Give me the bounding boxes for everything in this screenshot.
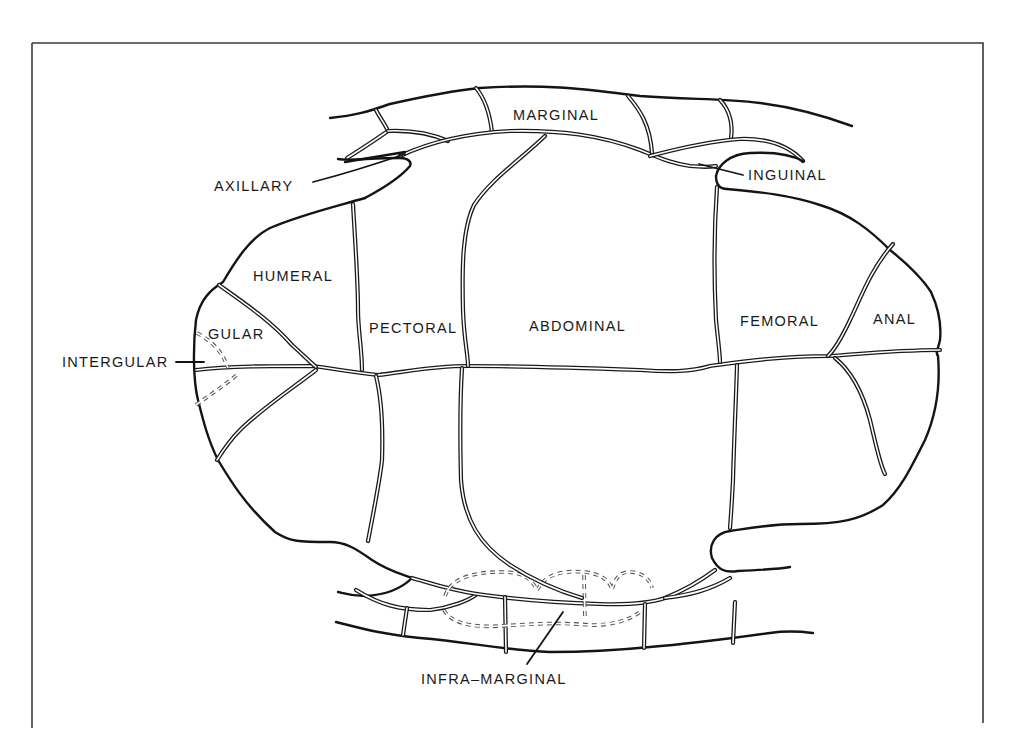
plastron-line-drawing bbox=[0, 0, 1022, 752]
label-inguinal: INGUINAL bbox=[748, 168, 827, 183]
lower-notches bbox=[338, 531, 790, 596]
label-pectoral: PECTORAL bbox=[369, 321, 457, 336]
upper-marginal-band bbox=[330, 86, 852, 166]
label-abdominal: ABDOMINAL bbox=[529, 319, 626, 334]
label-axillary: AXILLARY bbox=[214, 179, 293, 194]
infra-marginal-leader-line bbox=[527, 612, 563, 664]
plastron-outline bbox=[194, 189, 940, 578]
label-anal: ANAL bbox=[873, 312, 916, 327]
label-marginal: MARGINAL bbox=[513, 108, 599, 123]
axillary-notch bbox=[338, 152, 411, 198]
plastron-diagram-figure: MARGINAL AXILLARY INGUINAL HUMERAL GULAR… bbox=[0, 0, 1022, 752]
label-gular: GULAR bbox=[208, 327, 264, 342]
plastron-seams bbox=[196, 136, 940, 598]
label-femoral: FEMORAL bbox=[740, 314, 819, 329]
label-humeral: HUMERAL bbox=[253, 269, 333, 284]
label-intergular: INTERGULAR bbox=[62, 355, 168, 370]
label-infra-marginal: INFRA–MARGINAL bbox=[421, 672, 567, 687]
infra-marginal-dashed-outlines bbox=[444, 572, 652, 627]
